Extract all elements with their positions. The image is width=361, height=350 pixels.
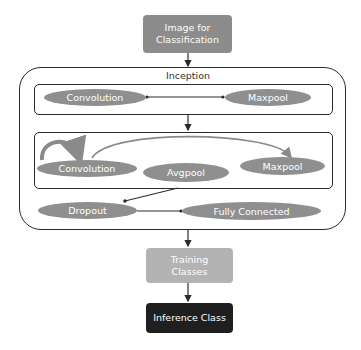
inference-box-label: Inference Class [153, 312, 226, 324]
node-maxpool-1: Maxpool [225, 89, 311, 106]
training-classes-box: Training Classes [146, 248, 233, 283]
training-box-line2: Classes [172, 266, 208, 278]
input-image-box: Image for Classification [143, 15, 232, 53]
node-maxpool-2: Maxpool [240, 157, 325, 175]
input-box-line2: Classification [156, 34, 219, 46]
training-box-line1: Training [171, 254, 209, 266]
node-dropout: Dropout [38, 202, 137, 219]
node-avgpool: Avgpool [143, 163, 229, 182]
node-convolution-1: Convolution [44, 89, 146, 106]
inference-class-box: Inference Class [146, 303, 233, 333]
input-box-line1: Image for [165, 22, 211, 34]
node-convolution-2: Convolution [37, 160, 137, 177]
inception-title: Inception [158, 70, 218, 81]
node-fully-connected: Fully Connected [182, 202, 321, 220]
